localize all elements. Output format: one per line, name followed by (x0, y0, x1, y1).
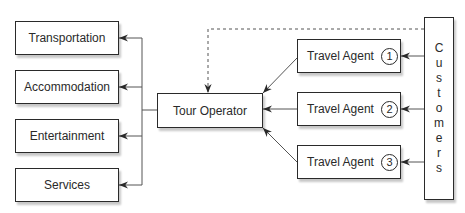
customers-letter: m (434, 116, 444, 131)
travel-agent-1-box: Travel Agent 1 (297, 39, 401, 73)
travel-agent-3-label: Travel Agent (307, 155, 374, 169)
customers-letter: s (436, 71, 442, 86)
agent-number-badge: 1 (381, 48, 398, 65)
customers-letter: s (436, 161, 442, 176)
tour-distribution-diagram: Transportation Accommodation Entertainme… (0, 0, 465, 213)
services-box: Services (15, 168, 119, 202)
travel-agent-2-box: Travel Agent 2 (297, 92, 401, 126)
accommodation-label: Accommodation (24, 80, 110, 94)
travel-agent-1-label: Travel Agent (307, 49, 374, 63)
tour-operator-label: Tour Operator (173, 104, 247, 118)
customers-letter: t (437, 86, 440, 101)
accommodation-box: Accommodation (15, 70, 119, 104)
services-label: Services (44, 178, 90, 192)
customers-letter: r (437, 146, 441, 161)
tour-operator-box: Tour Operator (157, 93, 263, 128)
customers-letter: o (436, 101, 443, 116)
transportation-label: Transportation (29, 31, 106, 45)
agent-number-badge: 3 (381, 154, 398, 171)
customers-box: C u s t o m e r s (424, 17, 454, 200)
customers-letter: u (436, 56, 443, 71)
agent-number-badge: 2 (381, 101, 398, 118)
entertainment-label: Entertainment (30, 129, 105, 143)
travel-agent-3-box: Travel Agent 3 (297, 145, 401, 179)
travel-agent-2-label: Travel Agent (307, 102, 374, 116)
customers-letter: e (436, 131, 443, 146)
entertainment-box: Entertainment (15, 119, 119, 153)
customers-letter: C (435, 41, 444, 56)
transportation-box: Transportation (15, 21, 119, 55)
